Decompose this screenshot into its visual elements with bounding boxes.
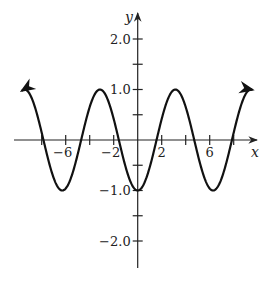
- x-tick-label: 2: [158, 145, 166, 160]
- y-axis: 2.01.0−1.0−2.0 y: [99, 9, 143, 268]
- x-axis: −6−226 x: [14, 135, 259, 160]
- y-tick-label: 2.0: [110, 32, 131, 47]
- function-plot: −6−226 x 2.01.0−1.0−2.0 y: [0, 0, 272, 285]
- x-tick-label: −2: [101, 145, 120, 160]
- y-tick-label: 1.0: [110, 82, 131, 97]
- y-tick-label: −2.0: [99, 234, 131, 249]
- y-axis-label: y: [124, 9, 134, 25]
- x-tick-label: −6: [53, 145, 72, 160]
- y-tick-label: −1.0: [99, 183, 131, 198]
- x-axis-label: x: [251, 144, 259, 160]
- x-tick-label: 6: [206, 145, 214, 160]
